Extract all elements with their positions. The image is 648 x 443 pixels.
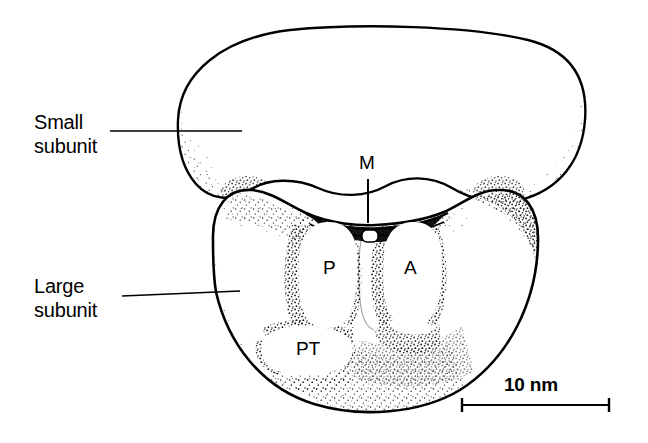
ribosome-diagram: Small subunit Large subunit M P A PT 10 … [0, 0, 648, 443]
large-subunit-label: Large subunit [34, 275, 97, 322]
m-site-label: M [359, 152, 375, 174]
scale-bar [461, 398, 610, 412]
small-subunit-label: Small subunit [34, 111, 97, 158]
small-subunit-body [170, 20, 600, 220]
a-site-label: A [404, 257, 416, 279]
p-site-label: P [323, 257, 335, 279]
scale-bar-label: 10 nm [504, 374, 558, 396]
pt-site-label: PT [296, 338, 320, 360]
